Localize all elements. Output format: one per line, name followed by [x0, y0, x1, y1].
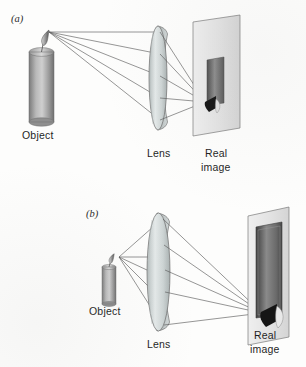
panel-a-flame	[42, 30, 49, 46]
panel-a-candle	[29, 30, 54, 126]
panel-b-object-label: Object	[89, 305, 121, 317]
panel-b-lens-label: Lens	[147, 338, 171, 350]
panel-b-label: (b)	[86, 208, 99, 220]
figure-canvas: (a) Object Lens	[0, 0, 306, 367]
panel-b: (b) Object Lens	[86, 207, 289, 355]
panel-a-incident-rays	[49, 32, 160, 120]
panel-a-lens	[149, 26, 168, 130]
panel-a-image-label-line2: image	[201, 161, 231, 173]
panel-b-candle	[102, 254, 116, 307]
panel-a-image-label-line1: Real	[205, 147, 227, 159]
panel-b-screen	[248, 207, 289, 345]
panel-b-refracted-rays	[163, 219, 262, 325]
panel-b-image-label-line2: image	[250, 343, 280, 355]
panel-a-label: (a)	[11, 13, 24, 25]
panel-a-lens-label: Lens	[147, 147, 171, 159]
panel-b-flame	[109, 254, 114, 264]
panel-b-lens	[147, 213, 170, 331]
panel-a-object-label: Object	[22, 129, 54, 141]
panel-b-image-label-line1: Real	[254, 329, 276, 341]
panel-a: (a) Object Lens	[11, 13, 240, 173]
optics-figure: (a) Object Lens	[0, 0, 306, 367]
panel-a-screen	[193, 15, 240, 136]
panel-b-image-body	[256, 222, 282, 318]
